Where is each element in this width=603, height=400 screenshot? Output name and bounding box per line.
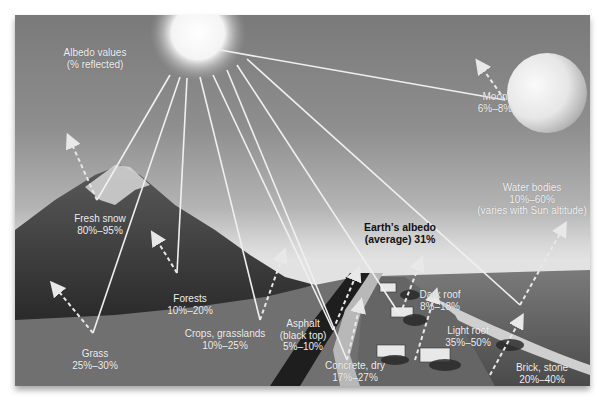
concrete-range: 17%–27%: [315, 372, 395, 384]
earth-line1: Earth’s albedo: [360, 221, 440, 233]
earth-albedo-label: Earth’s albedo (average) 31%: [360, 221, 440, 245]
brick-range: 20%–40%: [507, 374, 577, 386]
snow-name: Fresh snow: [60, 213, 140, 225]
grass-label: Grass 25%–30%: [65, 348, 125, 371]
fresh-snow-label: Fresh snow 80%–95%: [60, 213, 140, 236]
grass-range: 25%–30%: [65, 360, 125, 372]
water-note: (varies with Sun altitude): [462, 205, 590, 217]
water-name: Water bodies: [462, 182, 590, 194]
concrete-name: Concrete, dry: [315, 360, 395, 372]
water-range: 10%–60%: [462, 194, 590, 206]
brick-stone-label: Brick, stone 20%–40%: [507, 362, 577, 385]
crops-name: Crops, grasslands: [170, 328, 280, 340]
snow-range: 80%–95%: [60, 225, 140, 237]
sun-icon: [150, 15, 246, 81]
forests-name: Forests: [155, 293, 225, 305]
crops-range: 10%–25%: [170, 340, 280, 352]
concrete-label: Concrete, dry 17%–27%: [315, 360, 395, 383]
crops-label: Crops, grasslands 10%–25%: [170, 328, 280, 351]
asphalt-label: Asphalt (black top) 5%–10%: [273, 318, 333, 353]
title-line1: Albedo values: [45, 47, 145, 59]
moon-range: 6%–8%: [470, 103, 520, 115]
title-label: Albedo values (% reflected): [45, 47, 145, 70]
earth-line2: (average) 31%: [360, 233, 440, 245]
water-bodies-label: Water bodies 10%–60% (varies with Sun al…: [462, 182, 590, 217]
forests-range: 10%–20%: [155, 305, 225, 317]
albedo-diagram: Albedo values (% reflected) Moon 6%–8% W…: [15, 15, 590, 386]
grass-name: Grass: [65, 348, 125, 360]
light-roof-range: 35%–50%: [433, 337, 503, 349]
title-line2: (% reflected): [45, 59, 145, 71]
dark-roof-label: Dark roof 8%–18%: [410, 289, 470, 312]
light-roof-label: Light roof 35%–50%: [433, 325, 503, 348]
asphalt-name: Asphalt: [273, 318, 333, 330]
moon-name: Moon: [470, 91, 520, 103]
dark-roof-range: 8%–18%: [410, 301, 470, 313]
dark-roof-name: Dark roof: [410, 289, 470, 301]
brick-name: Brick, stone: [507, 362, 577, 374]
forests-label: Forests 10%–20%: [155, 293, 225, 316]
asphalt-range: 5%–10%: [273, 341, 333, 353]
asphalt-sub: (black top): [273, 330, 333, 342]
light-roof-name: Light roof: [433, 325, 503, 337]
moon-label: Moon 6%–8%: [470, 91, 520, 114]
